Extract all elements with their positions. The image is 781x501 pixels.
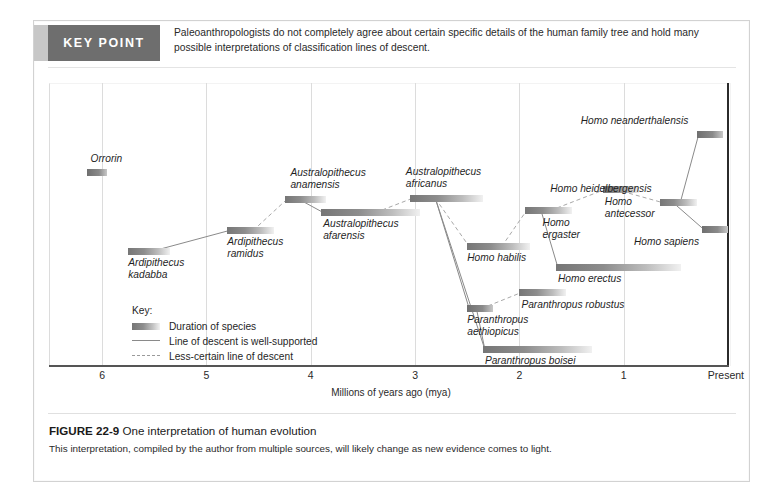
species-label: Orrorin: [91, 153, 123, 165]
species-label: Homo habilis: [467, 252, 526, 264]
species-bar: [285, 196, 327, 203]
species-bar: [556, 264, 681, 271]
species-bar: [467, 243, 530, 250]
species-bar: [697, 131, 723, 138]
species-label: Australopithecus anamensis: [290, 167, 365, 191]
key-point-banner: KEY POINT Paleoanthropologists do not co…: [34, 25, 748, 61]
duration-swatch-icon: [132, 323, 160, 330]
caption-title: One interpretation of human evolution: [122, 424, 316, 437]
species-bar: [519, 289, 566, 296]
caption-divider: [48, 413, 736, 414]
species-bar: [87, 169, 108, 176]
species-bar: [483, 346, 593, 353]
species-bar: [702, 226, 728, 233]
legend-title: Key:: [132, 305, 362, 316]
species-bar: [660, 199, 697, 206]
descent-line-uncertain: [502, 211, 527, 247]
species-label: Homo heidelbergensis: [550, 183, 651, 195]
species-label: Ardipithecus ramidus: [227, 236, 283, 260]
key-point-tab: [34, 25, 48, 61]
species-bar: [410, 195, 483, 202]
legend-item-dashed-line: Less-certain line of descent: [132, 349, 362, 363]
species-label: Homo ergaster: [543, 217, 580, 241]
descent-line-supported: [673, 203, 704, 230]
figure-page: KEY POINT Paleoanthropologists do not co…: [0, 0, 781, 501]
legend-item-solid-line-label: Line of descent is well-supported: [169, 336, 317, 347]
species-bar: [321, 209, 420, 216]
species-label: Homo antecessor: [605, 196, 655, 220]
species-bar: [227, 227, 274, 234]
caption-body: This interpretation, compiled by the aut…: [49, 442, 689, 456]
descent-line-supported: [680, 135, 698, 203]
species-label: Australopithecus africanus: [406, 166, 481, 190]
species-bar: [467, 305, 493, 312]
species-label: Homo neanderthalensis: [581, 115, 689, 127]
species-label: Paranthropus aethiopicus: [467, 314, 528, 338]
species-bar: [128, 248, 170, 255]
species-label: Paranthropus robustus: [521, 299, 624, 311]
key-point-text: Paleoanthropologists do not completely a…: [174, 26, 734, 55]
species-label: Paranthropus boisei: [485, 355, 576, 367]
species-label: Homo sapiens: [634, 236, 699, 248]
legend-item-solid-line: Line of descent is well-supported: [132, 334, 362, 348]
legend-item-duration-label: Duration of species: [169, 321, 256, 332]
legend-item-duration: Duration of species: [132, 319, 362, 333]
chart-legend: Key: Duration of species Line of descent…: [132, 305, 362, 364]
figure-card: KEY POINT Paleoanthropologists do not co…: [33, 20, 750, 482]
species-label: Homo erectus: [558, 273, 621, 285]
caption-title-row: FIGURE 22-9 One interpretation of human …: [49, 423, 689, 439]
dashed-line-icon: [132, 349, 160, 363]
legend-item-dashed-line-label: Less-certain line of descent: [169, 351, 293, 362]
species-bar: [525, 207, 572, 214]
descent-line-uncertain: [253, 200, 287, 231]
descent-line-uncertain: [435, 199, 469, 247]
key-point-divider: [48, 67, 736, 68]
caption-figure-number: FIGURE 22-9: [49, 424, 119, 437]
key-point-badge: KEY POINT: [48, 25, 160, 61]
species-label: Ardipithecus kadabba: [128, 257, 184, 281]
species-label: Australopithecus afarensis: [323, 218, 398, 242]
figure-caption: FIGURE 22-9 One interpretation of human …: [49, 423, 689, 456]
evolution-chart: 654321Present Millions of years ago (mya…: [34, 73, 748, 403]
solid-line-icon: [132, 334, 160, 348]
key-point-badge-label: KEY POINT: [48, 25, 160, 61]
